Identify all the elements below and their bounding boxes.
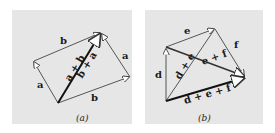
caption-b: (b) [198,113,211,123]
vector-addition-diagram: b a a b a + b b + a (a) e f d d + e e + … [0,0,275,133]
panel-b: e f d d + e e + f d + e + f (b) [145,10,263,124]
label-a-right: a [122,50,129,61]
label-b-top: b [60,35,67,46]
panel-b-background [145,10,263,124]
label-b-bottom: b [91,92,98,103]
panel-a: b a a b a + b b + a (a) [12,10,132,124]
label-d: d [155,69,162,80]
caption-a: (a) [76,113,89,123]
label-e: e [184,25,190,36]
label-a-left: a [37,79,44,90]
label-f: f [234,39,239,50]
